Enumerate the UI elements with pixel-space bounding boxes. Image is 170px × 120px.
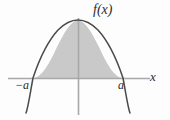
figure-container: f(x) −a a x xyxy=(0,0,170,120)
right-root-label: a xyxy=(118,79,124,91)
x-axis-label: x xyxy=(150,70,156,83)
left-root-label: −a xyxy=(15,79,29,91)
parabola-figure-svg xyxy=(0,0,170,120)
function-label: f(x) xyxy=(93,3,112,17)
